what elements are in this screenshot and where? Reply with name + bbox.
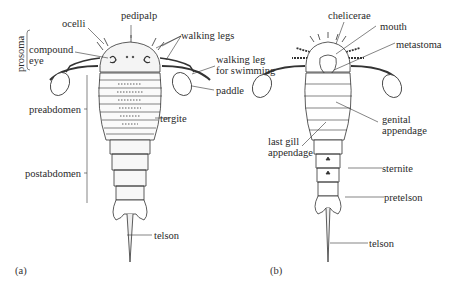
label-genital-appendage-line1: genital [382, 114, 411, 125]
label-telson-b: telson [369, 238, 394, 249]
label-metastoma: metastoma [396, 39, 442, 50]
label-postabdomen: postabdomen [25, 168, 81, 179]
label-prosoma: prosoma [15, 36, 26, 72]
label-telson-a: telson [154, 230, 179, 241]
label-tergite: tergite [160, 113, 187, 124]
label-mouth: mouth [380, 21, 407, 32]
label-last-gill-appendage-line1: last gill [268, 136, 299, 147]
label-pretelson: pretelson [384, 192, 423, 203]
label-sternite: sternite [382, 163, 413, 174]
label-walking-leg-swimming-line1: walking leg [216, 54, 265, 65]
label-genital-appendage-line2: appendage [382, 125, 427, 136]
label-walking-leg-swimming-line2: for swimming [216, 65, 275, 76]
label-walking-legs: walking legs [181, 30, 234, 41]
label-last-gill-appendage-line2: appendage [268, 147, 313, 158]
label-compound-eye-line2: eye [29, 55, 44, 66]
panel-label-b: (b) [270, 265, 282, 276]
panel-label-a: (a) [15, 265, 27, 276]
label-preabdomen: preabdomen [29, 104, 81, 115]
specimen-a-dorsal [47, 35, 210, 262]
label-paddle: paddle [216, 85, 244, 96]
label-compound-eye-line1: compound [29, 44, 73, 55]
label-ocelli: ocelli [62, 18, 85, 29]
label-chelicerae: chelicerae [328, 10, 371, 21]
label-pedipalp: pedipalp [121, 10, 157, 21]
